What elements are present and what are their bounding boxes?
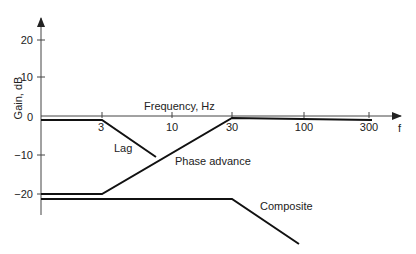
svg-text:−10: −10	[14, 149, 33, 161]
svg-text:300: 300	[360, 121, 378, 133]
x-axis-title: Frequency, Hz	[144, 100, 215, 112]
x-axis-end-label: f	[398, 122, 402, 134]
svg-text:30: 30	[226, 121, 238, 133]
y-axis-title: Gain, dB	[12, 77, 24, 120]
annotation-phase-advance: Phase advance	[175, 155, 251, 167]
svg-text:20: 20	[21, 34, 33, 46]
bode-chart: 20 10 0 −10 −20 3 10 30 100 300 Frequenc…	[0, 0, 416, 254]
annotation-composite: Composite	[260, 200, 313, 212]
svg-text:10: 10	[166, 121, 178, 133]
svg-text:−20: −20	[14, 188, 33, 200]
svg-text:0: 0	[27, 111, 33, 123]
x-tick-labels: 3 10 30 100 300	[98, 121, 378, 133]
svg-text:3: 3	[98, 121, 104, 133]
annotation-lag: Lag	[114, 142, 132, 154]
svg-text:100: 100	[295, 121, 313, 133]
